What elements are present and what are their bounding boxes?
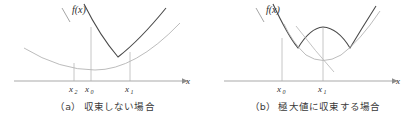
axis-label-a: x — [185, 76, 190, 86]
fx-leader-b — [256, 8, 264, 22]
approx-curve-b-secondary — [296, 26, 334, 72]
caption-b: （b）極大値に収束する場合 — [210, 100, 420, 114]
caption-text-b: 極大値に収束する場合 — [278, 101, 380, 112]
svg-text:0: 0 — [283, 89, 286, 95]
main-curve-b — [273, 4, 376, 48]
tick-label-x2-a: x 2 — [68, 84, 78, 95]
tick-label-x1-a: x 1 — [124, 84, 134, 95]
svg-text:1: 1 — [131, 89, 134, 95]
figure-root: f(x) x x 2 x 0 x 1 （a）収束しない場合 — [0, 0, 420, 125]
svg-text:2: 2 — [75, 89, 78, 95]
caption-index-b: （b） — [250, 101, 277, 112]
svg-text:x: x — [84, 84, 89, 94]
axis-label-b: x — [395, 76, 400, 86]
tick-label-x1-b: x 1 — [317, 84, 327, 95]
svg-text:x: x — [124, 84, 129, 94]
main-curve-a — [84, 4, 166, 57]
svg-text:x: x — [317, 84, 322, 94]
plot-b: f(x) x x 0 x 1 — [210, 0, 420, 100]
svg-text:x: x — [276, 84, 281, 94]
approx-curve-b — [284, 11, 380, 61]
tick-label-x0-a: x 0 — [84, 84, 94, 95]
approx-curve-a — [24, 23, 180, 70]
svg-text:1: 1 — [324, 89, 327, 95]
fx-leader-a — [62, 8, 70, 22]
panel-a: f(x) x x 2 x 0 x 1 （a）収束しない場合 — [0, 0, 210, 125]
function-label-a: f(x) — [72, 4, 87, 16]
function-label-b: f(x) — [266, 4, 281, 16]
plot-a: f(x) x x 2 x 0 x 1 — [0, 0, 210, 100]
panel-b: f(x) x x 0 x 1 （b）極大値に収束する場合 — [210, 0, 420, 125]
caption-index-a: （a） — [55, 101, 81, 112]
caption-a: （a）収束しない場合 — [0, 100, 210, 114]
caption-text-a: 収束しない場合 — [84, 101, 155, 112]
svg-text:x: x — [68, 84, 73, 94]
svg-text:0: 0 — [91, 89, 94, 95]
tick-label-x0-b: x 0 — [276, 84, 286, 95]
